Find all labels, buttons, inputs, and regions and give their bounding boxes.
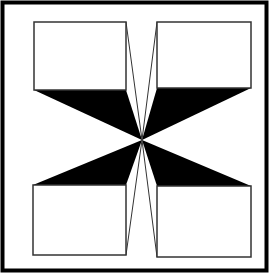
shadow-top-left [34, 90, 142, 140]
shadow-bottom-right [142, 140, 251, 186]
box-top-right [157, 22, 251, 88]
convergence-lines [126, 22, 157, 257]
shadow-bottom-left [33, 140, 142, 185]
shadow-top-right [142, 88, 251, 140]
box-bottom-right [157, 186, 251, 257]
x-shadow-diagram [0, 0, 270, 274]
box-bottom-left [33, 185, 126, 255]
box-top-left [34, 22, 126, 90]
